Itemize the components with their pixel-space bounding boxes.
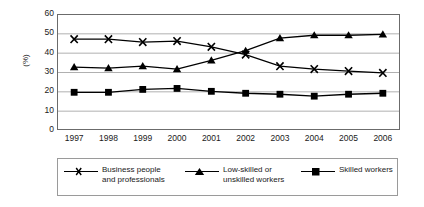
legend-label-line2: unskilled workers (223, 175, 284, 184)
y-tick-label: 60 (32, 9, 54, 18)
legend-item-business-people[interactable]: Business peopleand professionals (64, 165, 165, 184)
plot-svg (57, 14, 400, 130)
x-marker-icon (64, 166, 98, 177)
legend-label-line1: Skilled workers (339, 165, 393, 174)
legend-item-low-skilled[interactable]: Low-skilled orunskilled workers (185, 165, 284, 184)
legend-label-line1: Business people (102, 165, 161, 174)
y-axis-tick-labels: 0102030405060 (26, 0, 54, 207)
square-marker (71, 89, 78, 96)
y-tick-label: 50 (32, 28, 54, 37)
legend-label-line1: Low-skilled or (223, 165, 272, 174)
square-marker (277, 91, 284, 98)
x-axis-tick-labels: 1997199819992000200120022003200420052006 (57, 133, 400, 147)
square-marker (208, 88, 215, 95)
y-tick-label: 10 (32, 106, 54, 115)
y-tick-label: 20 (32, 86, 54, 95)
legend-label-business-people: Business peopleand professionals (102, 165, 165, 184)
legend-item-skilled-workers[interactable]: Skilled workers (301, 165, 393, 177)
square-marker-icon (301, 166, 335, 177)
gridlines (57, 34, 400, 111)
y-tick-label: 0 (32, 125, 54, 134)
x-tick-label: 2006 (363, 133, 403, 143)
square-marker (139, 86, 146, 93)
legend-label-line2: and professionals (102, 175, 165, 184)
chart-legend: Business peopleand professionals Low-ski… (57, 158, 398, 196)
square-marker (345, 91, 352, 98)
square-marker (105, 89, 112, 96)
square-marker (174, 85, 181, 92)
y-tick-label: 40 (32, 48, 54, 57)
chart-canvas: (%) 0102030405060 1997199819992000200120… (0, 0, 424, 207)
plot-area (57, 14, 400, 130)
series-layer (70, 30, 387, 99)
legend-label-skilled-workers: Skilled workers (339, 165, 393, 175)
triangle-marker-icon (185, 166, 219, 177)
legend-label-low-skilled: Low-skilled orunskilled workers (223, 165, 284, 184)
square-marker (311, 93, 318, 100)
square-marker (379, 90, 386, 97)
square-marker (242, 90, 249, 97)
triangle-marker (139, 62, 147, 69)
y-tick-label: 30 (32, 67, 54, 76)
